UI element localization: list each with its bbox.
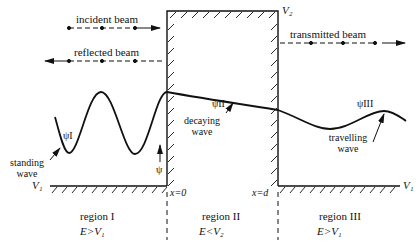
travelling-wave-label: travelling wave xyxy=(320,133,376,154)
region-3-condition: E>V₁ xyxy=(317,226,342,237)
reflected-beam-arrow xyxy=(45,59,165,62)
incident-beam-label: incident beam xyxy=(76,14,138,25)
right-potential-floor xyxy=(278,186,400,193)
transmitted-beam-label: transmitted beam xyxy=(290,29,366,40)
potential-barrier-diagram: incident beam reflected beam transmitted… xyxy=(0,0,420,242)
psi-3-label: ψIII xyxy=(357,99,373,109)
transmitted-beam-arrow xyxy=(280,41,405,44)
psi-1-label: ψI xyxy=(63,131,73,141)
psi-axis-label: ψ xyxy=(156,165,162,175)
left-floor-potential-label: V₁ xyxy=(32,180,43,191)
left-potential-floor xyxy=(50,186,167,193)
boundary-x0-label: x=0 xyxy=(170,188,186,198)
region-3-name: region III xyxy=(319,211,361,222)
boundary-xd-label: x=d xyxy=(252,188,268,198)
incident-beam-arrow xyxy=(67,26,160,29)
barrier-potential-label: V₂ xyxy=(282,5,293,16)
region-1-condition: E>V₁ xyxy=(80,226,105,237)
region-2-name: region II xyxy=(202,211,240,222)
psi-1-curve xyxy=(55,92,167,154)
psi-3-curve xyxy=(278,110,406,129)
decaying-wave-label: decaying wave xyxy=(177,116,227,137)
right-floor-potential-label: V₁ xyxy=(403,180,414,191)
reflected-beam-label: reflected beam xyxy=(74,47,139,58)
standing-wave-label: standing wave xyxy=(4,158,50,179)
region-2-condition: E<V₂ xyxy=(199,226,224,237)
psi-2-label: ψII xyxy=(212,99,225,109)
region-1-name: region I xyxy=(80,211,115,222)
